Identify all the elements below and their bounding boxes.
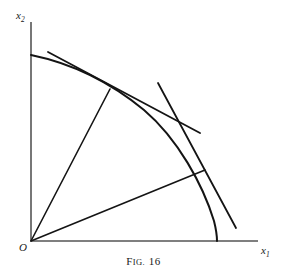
tangent-line-upper — [48, 52, 200, 133]
figure-caption-smallcaps: IG. — [133, 257, 145, 267]
tangent-line-lower — [158, 83, 236, 228]
y-axis-label-sub: 2 — [21, 15, 25, 24]
y-axis-label: x2 — [16, 10, 25, 24]
origin-label: O — [19, 241, 27, 253]
ray-from-origin-lower — [31, 170, 205, 241]
transformation-curve — [31, 55, 217, 241]
figure-caption-number: 16 — [149, 255, 161, 267]
figure-plot — [0, 0, 287, 280]
ray-from-origin-upper — [31, 89, 110, 241]
figure-caption: FIG.16 — [0, 255, 287, 267]
figure-container: x2 x1 O FIG.16 — [0, 0, 287, 280]
